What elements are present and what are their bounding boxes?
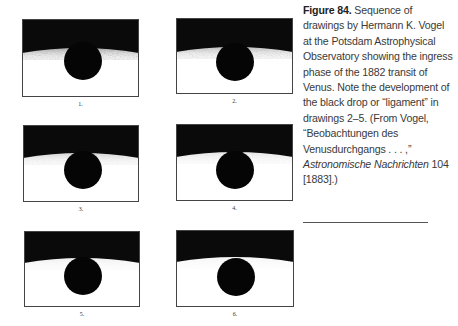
- drawing-panel-2: [176, 18, 293, 94]
- drawing-panel-4: [176, 124, 293, 201]
- figure-number: Figure 84.: [303, 4, 352, 16]
- drawing-label-2: 2.: [225, 98, 245, 104]
- caption-text: Sequence of drawings by Hermann K. Vogel…: [303, 4, 453, 155]
- drawing-panel-6: [176, 230, 294, 307]
- drawing-panel-3: [23, 125, 139, 202]
- drawing-label-1: 1.: [71, 101, 91, 107]
- drawing-panel-1: [22, 19, 139, 97]
- drawing-label-5: 5.: [72, 311, 92, 317]
- figure-caption: Figure 84. Sequence of drawings by Herma…: [303, 3, 453, 188]
- drawing-panel-5: [24, 231, 140, 307]
- drawing-label-4: 4.: [225, 205, 245, 211]
- drawing-label-6: 6.: [225, 311, 245, 317]
- caption-rule: [303, 222, 428, 223]
- drawing-label-3: 3.: [71, 206, 91, 212]
- journal-title: Astronomische Nachrichten: [303, 158, 429, 170]
